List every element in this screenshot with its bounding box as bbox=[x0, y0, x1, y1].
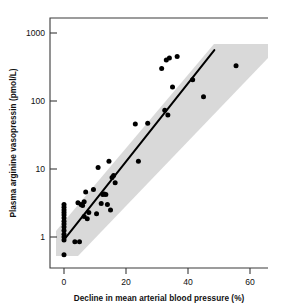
data-point bbox=[105, 202, 110, 207]
data-point bbox=[133, 121, 138, 126]
data-point bbox=[77, 239, 82, 244]
data-point bbox=[175, 54, 180, 59]
y-tick-label-10: 10 bbox=[35, 164, 45, 174]
x-axis-ticks bbox=[64, 268, 250, 274]
data-point bbox=[106, 159, 111, 164]
data-point bbox=[96, 165, 101, 170]
x-axis-title: Decline in mean arterial blood pressure … bbox=[74, 294, 245, 303]
data-point bbox=[162, 108, 167, 113]
data-point bbox=[62, 202, 67, 207]
data-point bbox=[83, 189, 88, 194]
data-point bbox=[113, 180, 118, 185]
data-point bbox=[94, 211, 99, 216]
data-point bbox=[136, 159, 141, 164]
data-point bbox=[72, 239, 77, 244]
x-tick-label-0: 0 bbox=[62, 277, 67, 287]
data-point bbox=[86, 210, 91, 215]
vasopressin-scatter-figure: 1000 100 10 1 0 20 40 60 Plasma arginine… bbox=[0, 0, 284, 306]
x-tick-label-40: 40 bbox=[183, 277, 193, 287]
data-point bbox=[167, 55, 172, 60]
data-point bbox=[62, 252, 67, 257]
data-point bbox=[103, 192, 108, 197]
data-point bbox=[111, 173, 116, 178]
data-point bbox=[85, 216, 90, 221]
data-point bbox=[234, 63, 239, 68]
data-point bbox=[201, 94, 206, 99]
data-point bbox=[145, 121, 150, 126]
data-point bbox=[165, 113, 170, 118]
data-point bbox=[91, 187, 96, 192]
data-point bbox=[82, 199, 87, 204]
y-tick-label-1: 1 bbox=[40, 232, 45, 242]
x-tick-label-20: 20 bbox=[121, 277, 131, 287]
data-point bbox=[170, 85, 175, 90]
y-axis-title: Plasma arginine vasopressin (pmol/L) bbox=[9, 68, 18, 217]
y-axis-tick-labels: 1000 100 10 1 bbox=[26, 28, 45, 242]
x-tick-label-60: 60 bbox=[245, 277, 255, 287]
x-axis-tick-labels: 0 20 40 60 bbox=[62, 277, 255, 287]
y-tick-label-1000: 1000 bbox=[26, 28, 45, 38]
data-point bbox=[159, 66, 164, 71]
data-point bbox=[108, 207, 113, 212]
y-tick-label-100: 100 bbox=[31, 96, 46, 106]
data-point bbox=[190, 77, 195, 82]
data-point bbox=[99, 201, 104, 206]
